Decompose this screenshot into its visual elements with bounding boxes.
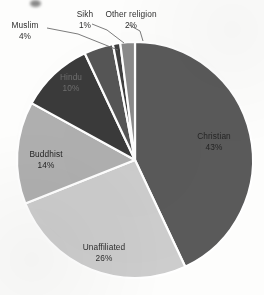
slice-label-buddhist: Buddhist 14%	[18, 149, 74, 170]
slice-label-unaffiliated: Unaffiliated 26%	[62, 242, 146, 263]
slice-label-sikh-name: Sikh	[70, 9, 100, 20]
slice-label-buddhist-value: 14%	[18, 160, 74, 171]
slice-label-muslim-value: 4%	[2, 31, 48, 42]
slice-label-sikh-value: 1%	[70, 20, 100, 31]
slice-label-muslim-name: Muslim	[2, 20, 48, 31]
slice-label-christian-name: Christian	[186, 131, 242, 142]
slice-label-unaffiliated-value: 26%	[62, 253, 146, 264]
chart-page: Muslim 4% Sikh 1% Other religion 2% Chri…	[0, 0, 264, 295]
slice-label-muslim: Muslim 4%	[2, 20, 48, 41]
slice-label-sikh: Sikh 1%	[70, 9, 100, 30]
slice-label-hindu-name: Hindu	[48, 72, 94, 83]
slice-label-other-religion-name: Other religion	[98, 9, 164, 20]
slice-label-other-religion-value: 2%	[98, 20, 164, 31]
slice-label-christian: Christian 43%	[186, 131, 242, 152]
slice-label-other-religion: Other religion 2%	[98, 9, 164, 30]
slice-label-buddhist-name: Buddhist	[18, 149, 74, 160]
slice-label-christian-value: 43%	[186, 142, 242, 153]
slice-label-hindu: Hindu 10%	[48, 72, 94, 93]
scan-artifact	[30, 0, 41, 7]
slice-label-hindu-value: 10%	[48, 83, 94, 94]
slice-label-unaffiliated-name: Unaffiliated	[62, 242, 146, 253]
